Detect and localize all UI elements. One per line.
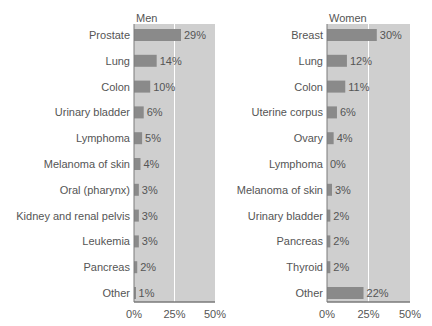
women-bar xyxy=(327,106,337,118)
men-category-label: Oral (pharynx) xyxy=(60,184,130,196)
women-category-label: Uterine corpus xyxy=(251,106,323,118)
men-value-label: 5% xyxy=(145,132,161,144)
women-value-label: 6% xyxy=(340,106,356,118)
women-x-tick-label: 25% xyxy=(357,308,379,320)
men-x-tick-label: 25% xyxy=(163,308,185,320)
women-value-label: 3% xyxy=(335,184,351,196)
men-value-label: 3% xyxy=(142,184,158,196)
men-value-label: 1% xyxy=(139,287,155,299)
women-category-label: Breast xyxy=(291,29,323,41)
women-value-label: 4% xyxy=(337,132,353,144)
men-value-label: 4% xyxy=(143,158,159,170)
women-value-label: 0% xyxy=(330,158,346,170)
women-value-label: 12% xyxy=(350,55,372,67)
men-bar xyxy=(134,132,142,144)
women-bar xyxy=(327,81,345,93)
women-category-label: Thyroid xyxy=(286,261,323,273)
women-category-label: Melanoma of skin xyxy=(237,184,323,196)
men-value-label: 10% xyxy=(153,81,175,93)
men-category-label: Pancreas xyxy=(84,261,131,273)
women-bar xyxy=(327,184,332,196)
men-category-label: Urinary bladder xyxy=(55,106,131,118)
women-category-label: Other xyxy=(295,287,323,299)
men-category-label: Other xyxy=(102,287,130,299)
men-x-tick-label: 0% xyxy=(126,308,142,320)
men-value-label: 2% xyxy=(140,261,156,273)
chart-canvas: Men0%25%50%Prostate29%Lung14%Colon10%Uri… xyxy=(0,0,432,326)
women-category-label: Pancreas xyxy=(277,235,324,247)
women-bar xyxy=(327,287,364,299)
men-category-label: Prostate xyxy=(89,29,130,41)
men-bar xyxy=(134,210,139,222)
men-bar xyxy=(134,81,150,93)
women-value-label: 30% xyxy=(380,29,402,41)
men-value-label: 14% xyxy=(160,55,182,67)
women-category-label: Urinary bladder xyxy=(248,210,324,222)
women-value-label: 2% xyxy=(333,235,349,247)
women-chart-title: Women xyxy=(329,12,367,24)
men-category-label: Leukemia xyxy=(82,235,131,247)
women-x-tick-label: 0% xyxy=(319,308,335,320)
men-value-label: 6% xyxy=(147,106,163,118)
men-bar xyxy=(134,55,157,67)
men-bar xyxy=(134,158,140,170)
men-category-label: Colon xyxy=(101,81,130,93)
men-bar xyxy=(134,29,181,41)
men-category-label: Kidney and renal pelvis xyxy=(16,210,130,222)
women-category-label: Lymphoma xyxy=(269,158,324,170)
women-bar xyxy=(327,55,347,67)
women-bar xyxy=(327,29,377,41)
women-value-label: 2% xyxy=(333,261,349,273)
women-category-label: Ovary xyxy=(294,132,324,144)
men-category-label: Lung xyxy=(106,55,130,67)
women-value-label: 11% xyxy=(348,81,369,93)
men-category-label: Lymphoma xyxy=(76,132,131,144)
women-category-label: Lung xyxy=(299,55,323,67)
women-x-tick-label: 50% xyxy=(399,308,421,320)
women-category-label: Colon xyxy=(294,81,323,93)
men-category-label: Melanoma of skin xyxy=(44,158,130,170)
women-value-label: 22% xyxy=(367,287,389,299)
men-value-label: 3% xyxy=(142,210,158,222)
men-value-label: 29% xyxy=(184,29,206,41)
men-value-label: 3% xyxy=(142,235,158,247)
women-bar xyxy=(327,132,334,144)
men-bar xyxy=(134,106,144,118)
men-bar xyxy=(134,184,139,196)
men-x-tick-label: 50% xyxy=(204,308,226,320)
women-value-label: 2% xyxy=(333,210,349,222)
men-bar xyxy=(134,235,139,247)
men-chart-title: Men xyxy=(136,12,157,24)
